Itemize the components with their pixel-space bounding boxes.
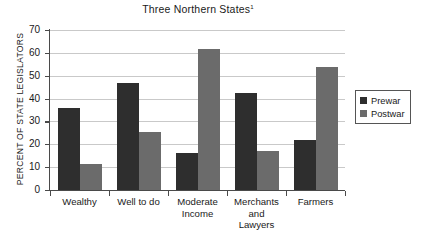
category-label-line: Lawyers [221,219,292,231]
y-tick-label-20: 20 [14,138,40,149]
bar-prewar-0 [58,108,80,190]
bar-prewar-3 [235,93,257,190]
gridline-70 [50,30,345,31]
y-tick-label-10: 10 [14,161,40,172]
bar-postwar-0 [80,164,102,190]
y-tick-label-0: 0 [14,184,40,195]
y-tick-label-70: 70 [14,24,40,35]
chart-title-footnote-marker: 1 [250,4,254,10]
category-label-line: and [221,208,292,220]
legend-label-postwar: Postwar [371,109,405,119]
gridline-0 [50,190,345,191]
legend-item-postwar[interactable]: Postwar [360,107,405,120]
chart-title-text: Three Northern States [142,3,250,15]
bar-prewar-4 [294,140,316,190]
bar-chart-figure: Three Northern States1 PERCENT OF STATE … [0,0,429,241]
legend-item-prewar[interactable]: Prewar [360,94,405,107]
legend-swatch-postwar-icon [360,110,367,117]
bar-prewar-2 [176,153,198,190]
legend-label-prewar: Prewar [371,96,400,106]
category-label-4: Farmers [280,196,351,208]
legend: Prewar Postwar [355,90,411,124]
category-label-line: Farmers [280,196,351,208]
y-tick-label-50: 50 [14,70,40,81]
y-tick-label-40: 40 [14,93,40,104]
chart-title: Three Northern States1 [50,3,346,15]
bar-postwar-3 [257,151,279,190]
plot-area [50,30,345,190]
bar-postwar-2 [198,49,220,190]
bar-postwar-1 [139,132,161,190]
y-tick-label-60: 60 [14,47,40,58]
bar-postwar-4 [316,67,338,190]
y-tick-label-30: 30 [14,115,40,126]
bar-prewar-1 [117,83,139,190]
legend-swatch-prewar-icon [360,97,367,104]
